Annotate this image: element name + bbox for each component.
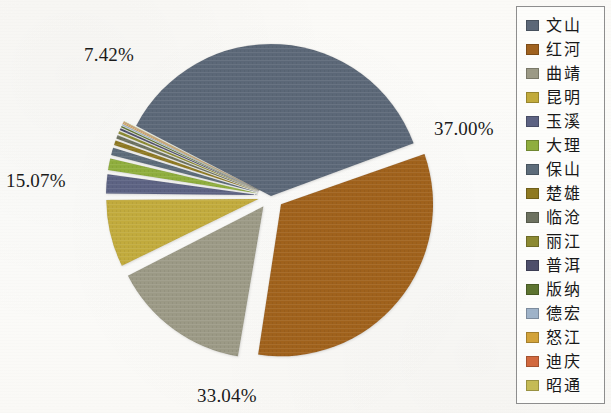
legend-item[interactable]: 红河: [517, 38, 604, 61]
legend-item-label: 丽江: [546, 233, 582, 250]
legend-item-label: 楚雄: [546, 185, 582, 202]
legend-color-swatch: [526, 20, 539, 31]
chart-legend: 文山红河曲靖昆明玉溪大理保山楚雄临沧丽江普洱版纳德宏怒江迪庆昭通: [516, 6, 605, 404]
pie-chart-svg: [0, 0, 500, 413]
legend-item[interactable]: 迪庆: [517, 350, 604, 373]
legend-item-label: 迪庆: [546, 353, 582, 370]
legend-item-label: 保山: [546, 161, 582, 178]
legend-item-label: 德宏: [546, 305, 582, 322]
legend-item-label: 玉溪: [546, 113, 582, 130]
legend-item-label: 昭通: [546, 377, 582, 394]
legend-color-swatch: [526, 380, 539, 391]
legend-color-swatch: [526, 188, 539, 199]
legend-item-label: 普洱: [546, 257, 582, 274]
legend-color-swatch: [526, 116, 539, 127]
legend-item-label: 临沧: [546, 209, 582, 226]
pie-percent-label-kunming: 7.42%: [84, 44, 134, 66]
legend-item[interactable]: 丽江: [517, 230, 604, 253]
legend-color-swatch: [526, 236, 539, 247]
legend-item-label: 红河: [546, 41, 582, 58]
legend-color-swatch: [526, 140, 539, 151]
legend-item[interactable]: 文山: [517, 14, 604, 37]
legend-item[interactable]: 楚雄: [517, 182, 604, 205]
legend-item-label: 版纳: [546, 281, 582, 298]
legend-color-swatch: [526, 356, 539, 367]
pie-percent-label-honghe: 33.04%: [197, 385, 257, 407]
legend-item[interactable]: 曲靖: [517, 62, 604, 85]
legend-item[interactable]: 德宏: [517, 302, 604, 325]
legend-color-swatch: [526, 332, 539, 343]
legend-item[interactable]: 昆明: [517, 86, 604, 109]
legend-color-swatch: [526, 308, 539, 319]
legend-color-swatch: [526, 44, 539, 55]
legend-item[interactable]: 玉溪: [517, 110, 604, 133]
legend-item[interactable]: 大理: [517, 134, 604, 157]
legend-item[interactable]: 保山: [517, 158, 604, 181]
legend-item[interactable]: 普洱: [517, 254, 604, 277]
legend-item-label: 曲靖: [546, 65, 582, 82]
legend-item[interactable]: 版纳: [517, 278, 604, 301]
legend-color-swatch: [526, 164, 539, 175]
legend-color-swatch: [526, 212, 539, 223]
legend-color-swatch: [526, 92, 539, 103]
pie-chart-area: 37.00% 33.04% 15.07% 7.42%: [0, 0, 500, 413]
legend-color-swatch: [526, 68, 539, 79]
legend-item[interactable]: 昭通: [517, 374, 604, 397]
legend-item[interactable]: 临沧: [517, 206, 604, 229]
legend-color-swatch: [526, 284, 539, 295]
pie-percent-label-qujing: 15.07%: [6, 170, 66, 192]
legend-item[interactable]: 怒江: [517, 326, 604, 349]
legend-item-label: 昆明: [546, 89, 582, 106]
legend-item-label: 怒江: [546, 329, 582, 346]
legend-color-swatch: [526, 260, 539, 271]
pie-slice-texture: [106, 44, 433, 356]
pie-percent-label-wenshan: 37.00%: [434, 118, 494, 140]
legend-item-label: 大理: [546, 137, 582, 154]
legend-item-label: 文山: [546, 17, 582, 34]
